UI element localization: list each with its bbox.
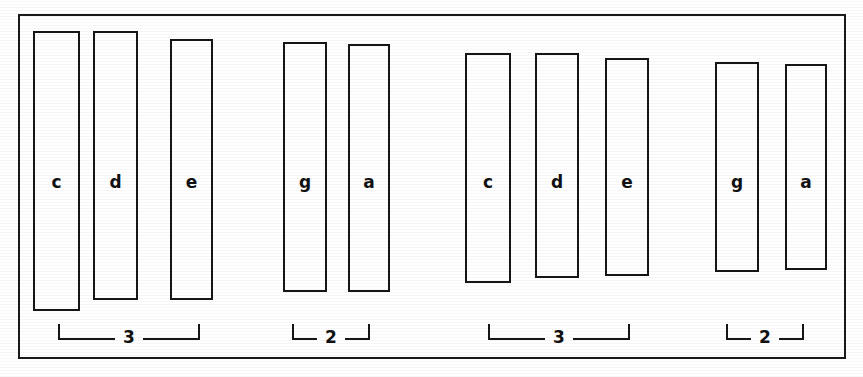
group-bracket: 3: [58, 318, 200, 340]
group-count-label: 2: [322, 329, 340, 346]
group-bracket: 2: [292, 318, 370, 340]
bracket-right-rule: [345, 338, 370, 340]
figure-canvas: c d e g a c d e g a 3 2 3: [0, 0, 863, 377]
bar-label: c: [467, 174, 509, 191]
bar: e: [605, 58, 649, 276]
bar-label: a: [350, 174, 388, 191]
bracket-right-tick: [368, 324, 370, 340]
bar-label: d: [537, 174, 577, 191]
bar-label: g: [285, 174, 325, 191]
bracket-left-rule: [58, 338, 115, 340]
bracket-right-tick: [802, 324, 804, 340]
bar: c: [33, 31, 80, 311]
bar: a: [785, 64, 827, 270]
group-count-label: 3: [550, 329, 568, 346]
bar-label: c: [35, 174, 78, 191]
group-bracket: 2: [726, 318, 804, 340]
bracket-right-tick: [628, 324, 630, 340]
group-count-label: 2: [756, 329, 774, 346]
bracket-right-rule: [779, 338, 804, 340]
bar: c: [465, 53, 511, 283]
bar-label: a: [787, 174, 825, 191]
bar: d: [93, 31, 138, 300]
bracket-right-rule: [143, 338, 200, 340]
bar: d: [535, 53, 579, 278]
bracket-left-rule: [726, 338, 751, 340]
bar: e: [170, 39, 213, 300]
group-bracket: 3: [488, 318, 630, 340]
bar: a: [348, 44, 390, 292]
group-count-label: 3: [120, 329, 138, 346]
bar: g: [715, 62, 759, 272]
bracket-right-rule: [573, 338, 630, 340]
bar: g: [283, 42, 327, 292]
bar-label: d: [95, 174, 136, 191]
bracket-right-tick: [198, 324, 200, 340]
bar-label: g: [717, 174, 757, 191]
bar-label: e: [172, 174, 211, 191]
bar-label: e: [607, 174, 647, 191]
bracket-left-rule: [292, 338, 317, 340]
bracket-left-rule: [488, 338, 545, 340]
